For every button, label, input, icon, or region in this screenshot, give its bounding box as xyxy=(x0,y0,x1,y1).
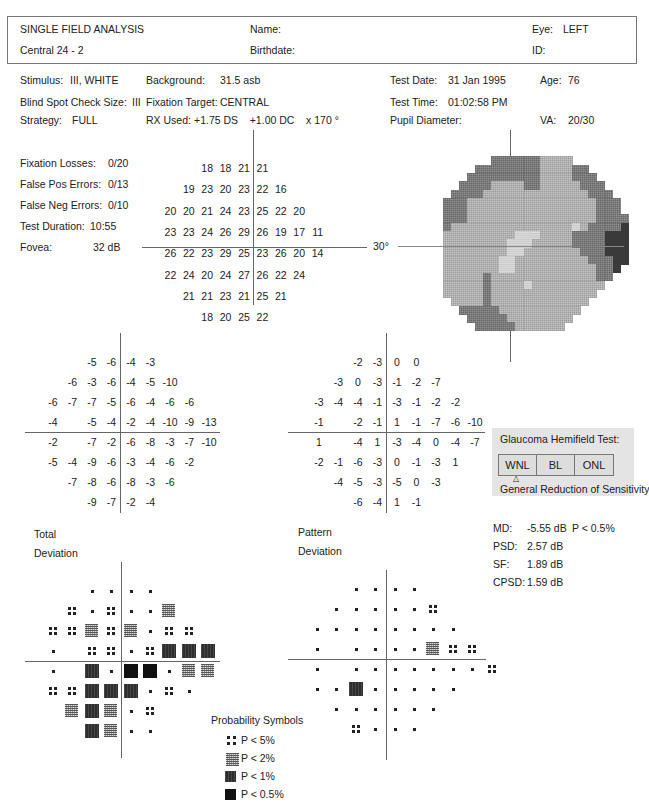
p1-symbol-icon xyxy=(162,644,176,658)
normal-dot-icon xyxy=(104,664,118,678)
p5-symbol-icon xyxy=(46,684,60,698)
grid-value: 1 xyxy=(387,496,407,508)
grid-value: -4 xyxy=(141,456,161,468)
grid-value: -4 xyxy=(63,456,83,468)
id-label: ID: xyxy=(532,44,545,56)
grid-value: 29 xyxy=(216,247,236,259)
grid-value: 25 xyxy=(252,205,272,217)
grid-value: -1 xyxy=(407,416,427,428)
grid-value: 19 xyxy=(271,226,291,238)
normal-dot-icon xyxy=(388,582,402,596)
normal-dot-icon xyxy=(124,604,138,618)
grid-value: -7 xyxy=(82,436,102,448)
normal-dot-icon xyxy=(104,584,118,598)
grid-value: 22 xyxy=(160,269,180,281)
duration-label: Test Duration: xyxy=(20,220,85,232)
grid-value: 19 xyxy=(179,183,199,195)
grid-value: -6 xyxy=(121,396,141,408)
glaucoma-hemifield-test: Glaucoma Hemifield Test: WNL BL ONL △ Ge… xyxy=(492,428,634,496)
ght-result: General Reduction of Sensitivity xyxy=(500,483,649,495)
p1-symbol-icon xyxy=(85,704,99,718)
grid-value: 24 xyxy=(216,205,236,217)
p1-symbol-icon xyxy=(182,644,196,658)
grid-value: 22 xyxy=(179,247,199,259)
grid-value: 0 xyxy=(407,356,427,368)
grid-value: -2 xyxy=(407,376,427,388)
pdp-horizontal-axis xyxy=(288,659,486,660)
p05-symbol-icon xyxy=(124,664,138,678)
grid-value: -6 xyxy=(102,456,122,468)
legend-p2-label: P < 2% xyxy=(241,752,275,764)
p1-symbol-icon xyxy=(349,682,363,696)
p5-symbol-icon xyxy=(465,642,479,656)
grid-value: 26 xyxy=(271,247,291,259)
grid-value: 23 xyxy=(197,247,217,259)
legend-p1-label: P < 1% xyxy=(241,770,275,782)
p5-symbol-icon xyxy=(162,684,176,698)
p2-symbol-icon xyxy=(162,604,175,617)
grid-value: -6 xyxy=(348,496,368,508)
grid-value: -5 xyxy=(43,456,63,468)
grid-value: -3 xyxy=(329,376,349,388)
grid-value: -1 xyxy=(407,396,427,408)
normal-dot-icon xyxy=(310,622,324,636)
va-value: 20/30 xyxy=(568,114,594,126)
p5-symbol-icon xyxy=(65,624,79,638)
grid-value: 1 xyxy=(446,456,466,468)
normal-dot-icon xyxy=(143,684,157,698)
grid-value: 20 xyxy=(160,205,180,217)
grid-value: -4 xyxy=(102,416,122,428)
ght-bl: BL xyxy=(536,454,575,476)
grid-value: -9 xyxy=(180,416,200,428)
grid-value: -2 xyxy=(121,416,141,428)
false-neg-value: 0/10 xyxy=(108,199,128,211)
blindspot-label: Blind Spot Check Size: xyxy=(20,96,127,108)
p05-symbol-icon xyxy=(143,664,157,678)
grid-value: -4 xyxy=(43,416,63,428)
normal-dot-icon xyxy=(368,582,382,596)
grid-value: -3 xyxy=(309,396,329,408)
grid-value: -2 xyxy=(348,416,368,428)
normal-dot-icon xyxy=(465,662,479,676)
normal-dot-icon xyxy=(349,642,363,656)
normal-dot-icon xyxy=(407,702,421,716)
normal-dot-icon xyxy=(446,662,460,676)
grid-value: -5 xyxy=(102,396,122,408)
eye-label: Eye: xyxy=(532,23,553,35)
grid-value: -1 xyxy=(407,456,427,468)
grid-value: -5 xyxy=(348,476,368,488)
grid-value: 26 xyxy=(160,247,180,259)
normal-dot-icon xyxy=(329,702,343,716)
p2-symbol-icon xyxy=(426,642,439,655)
grid-value: -10 xyxy=(465,416,485,428)
normal-dot-icon xyxy=(388,642,402,656)
grid-value: 22 xyxy=(252,183,272,195)
grid-value: 18 xyxy=(216,162,236,174)
normal-dot-icon xyxy=(46,664,60,678)
fovea-label: Fovea: xyxy=(20,241,52,253)
grid-value: 20 xyxy=(289,205,309,217)
grid-value: 23 xyxy=(234,183,254,195)
grid-value: -2 xyxy=(426,396,446,408)
normal-dot-icon xyxy=(85,584,99,598)
grid-value: 20 xyxy=(216,183,236,195)
grid-value: -6 xyxy=(160,396,180,408)
grid-value: -9 xyxy=(82,496,102,508)
normal-dot-icon xyxy=(349,582,363,596)
grid-value: -7 xyxy=(82,396,102,408)
grid-value: -2 xyxy=(180,456,200,468)
normal-dot-icon xyxy=(349,622,363,636)
normal-dot-icon xyxy=(46,644,60,658)
normal-dot-icon xyxy=(407,642,421,656)
normal-dot-icon xyxy=(426,662,440,676)
legend-p5-label: P < 5% xyxy=(241,734,275,746)
cpsd-label: CPSD: xyxy=(493,576,525,588)
grid-value: -1 xyxy=(309,416,329,428)
tdp-horizontal-axis xyxy=(25,661,220,662)
fixation-target-label: Fixation Target: xyxy=(146,96,218,108)
fovea-value: 32 dB xyxy=(93,241,120,253)
p1-symbol-icon xyxy=(85,664,99,678)
p2-symbol-icon xyxy=(124,624,137,637)
test-time-value: 01:02:58 PM xyxy=(448,96,508,108)
normal-dot-icon xyxy=(368,602,382,616)
